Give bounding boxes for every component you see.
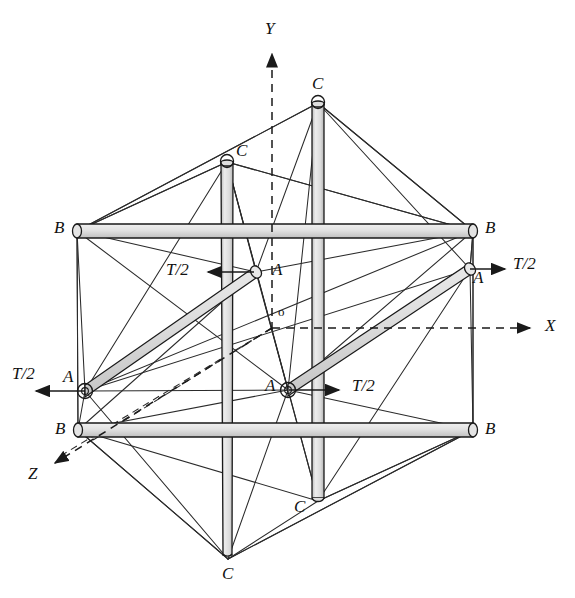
cable-cbot-bll <box>78 430 228 559</box>
node-label-c-top: C <box>312 75 323 92</box>
node-label-a-upper-right: A <box>473 269 483 286</box>
node-label-a-lower-left: A <box>63 368 73 385</box>
cable-cul-bur <box>227 162 473 231</box>
node-label-a-lower-mid: A <box>265 377 275 394</box>
origin-label: o <box>278 305 285 318</box>
strut-B-upper <box>73 224 478 238</box>
cable-cbot-all <box>85 391 228 559</box>
cable-cbot-alm <box>228 390 288 559</box>
strut-A-right <box>281 261 478 398</box>
node-label-c-lower-mid: C <box>294 498 305 515</box>
axis-label-y: Y <box>265 20 274 37</box>
force-label-lower-left: T/2 <box>12 365 35 382</box>
cable-outline <box>318 103 473 501</box>
cable-ctop-aur <box>318 103 470 269</box>
cable-ctop-bur <box>318 103 473 231</box>
node-label-b-lower-left: B <box>55 420 65 437</box>
cable-all-alm <box>85 390 288 391</box>
cable-cul-all <box>85 162 227 391</box>
node-label-c-bottom: C <box>222 565 233 582</box>
node-label-b-upper-left: B <box>54 219 64 236</box>
strut-A-left <box>78 264 264 399</box>
cable-cbot-blr <box>228 430 473 559</box>
diagram-svg <box>0 0 575 598</box>
cable-ctop-bul <box>77 103 318 231</box>
node-label-a-upper-mid: A <box>272 261 282 278</box>
force-label-upper-right: T/2 <box>513 255 536 272</box>
strut-B-lower <box>74 423 478 437</box>
force-label-lower-mid: T/2 <box>352 377 375 394</box>
node-label-c-upper-left: C <box>236 142 247 159</box>
axis-label-z: Z <box>28 465 37 482</box>
cable-side-left <box>77 231 78 430</box>
node-label-b-upper-right: B <box>485 219 495 236</box>
force-label-upper-left: T/2 <box>166 261 189 278</box>
cable-network <box>77 103 473 559</box>
axis-lines <box>55 54 530 463</box>
cable-clm-bll <box>78 430 318 501</box>
axis-label-x: X <box>545 317 555 334</box>
node-label-b-lower-right: B <box>485 420 495 437</box>
cable-cul-bul <box>77 162 227 231</box>
strut-C-right <box>312 101 325 501</box>
figure-canvas: Y X Z o C C C C B B B B A A A A T/2 T/2 … <box>0 0 575 598</box>
